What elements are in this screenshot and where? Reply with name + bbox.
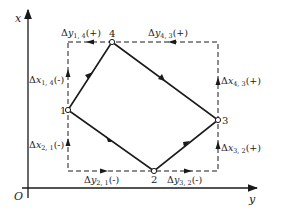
coordinate-axes: x y O [14,10,257,206]
label-dx14: Δx1, 4(-) [29,74,64,87]
label-dy14: Δy1, 4(+) [61,27,101,40]
station-label-1: 1 [60,105,66,116]
label-dx43: Δx4, 3(+) [221,75,261,88]
label-dx21: Δx2, 1(-) [29,139,64,152]
station-point-4 [109,39,114,44]
arrow-dy21-icon [100,169,108,174]
station-point-2 [151,168,156,173]
arrow-dx43-icon [216,77,221,85]
station-label-2: 2 [151,174,157,185]
arrow-dy32-icon [184,169,192,174]
increment-arrows [66,40,221,174]
arrow-dx21-icon [66,138,71,146]
station-label-3: 3 [222,115,228,126]
traverse-polygon [68,42,218,171]
dashed-projection-box [68,42,218,171]
station-point-3 [215,117,220,122]
x-axis-label: x [15,12,22,25]
arrow-dy43-icon [168,40,176,45]
traverse-diagram: x y O 4 1 2 3 [0,0,282,210]
arrow-dy14-icon [86,40,94,45]
y-axis-label: y [248,193,256,206]
label-dy32: Δy3, 2(-) [167,174,202,187]
label-dx32: Δx3, 2(+) [221,142,261,155]
origin-label: O [14,190,23,203]
arrow-dx14-icon [66,69,71,77]
arrow-dx32-icon [216,141,221,149]
label-dy21: Δy2, 1(-) [84,174,119,187]
label-dy43: Δy4, 3(+) [148,27,188,40]
station-label-4: 4 [109,28,115,39]
station-points [65,39,220,173]
